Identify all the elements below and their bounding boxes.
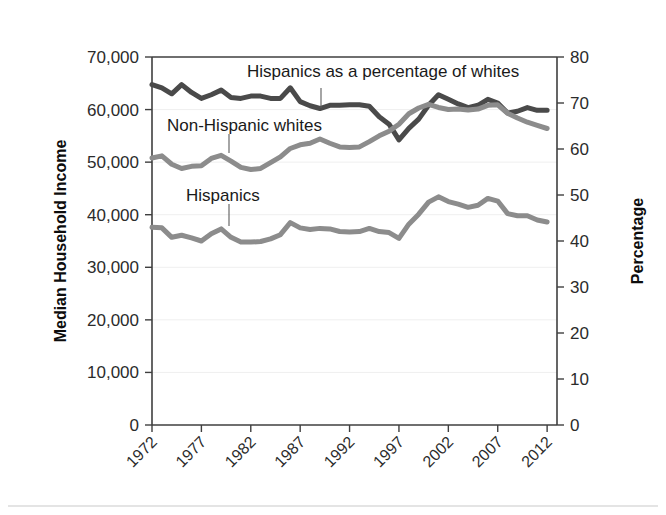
- y-tick-label-left: 10,000: [87, 363, 139, 382]
- y-tick-label-right: 20: [570, 324, 589, 343]
- y-tick-label-left: 60,000: [87, 101, 139, 120]
- y-tick-label-left: 40,000: [87, 206, 139, 225]
- y-tick-label-left: 50,000: [87, 153, 139, 172]
- dual-axis-line-chart: 010,00020,00030,00040,00050,00060,00070,…: [0, 0, 666, 515]
- y-tick-label-left: 20,000: [87, 311, 139, 330]
- y-tick-label-right: 10: [570, 370, 589, 389]
- y-tick-label-right: 30: [570, 278, 589, 297]
- y-tick-label-left: 30,000: [87, 258, 139, 277]
- y-tick-label-right: 50: [570, 186, 589, 205]
- y-tick-label-right: 60: [570, 140, 589, 159]
- series-label-ratio: Hispanics as a percentage of whites: [247, 62, 519, 81]
- y-tick-label-right: 40: [570, 232, 589, 251]
- y-tick-label-left: 70,000: [87, 48, 139, 67]
- series-label-hispanics: Hispanics: [186, 186, 260, 205]
- series-label-non-hispanic-whites: Non-Hispanic whites: [167, 116, 322, 135]
- y-axis-right-title: Percentage: [629, 198, 646, 284]
- y-tick-label-left: 0: [130, 416, 139, 435]
- chart-figure: 010,00020,00030,00040,00050,00060,00070,…: [0, 0, 666, 515]
- y-tick-label-right: 70: [570, 94, 589, 113]
- y-tick-label-right: 0: [570, 416, 579, 435]
- y-axis-left-title: Median Household Income: [52, 140, 69, 343]
- y-tick-label-right: 80: [570, 48, 589, 67]
